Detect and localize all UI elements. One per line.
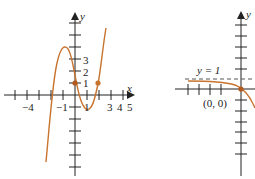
right-graph: y y = 1 (0, 0) [175, 8, 255, 176]
x-tick-label-neg1: −1 [56, 101, 68, 113]
point-origin [238, 86, 243, 91]
origin-label: (0, 0) [203, 97, 227, 110]
point-0-1 [72, 80, 77, 85]
y-tick-label-3: 3 [83, 54, 89, 66]
right-y-label: y [245, 8, 251, 20]
left-graph: y x −4 −1 1 3 4 5 3 2 1 [4, 10, 133, 176]
x-tick-label-1: 1 [84, 101, 90, 113]
x-tick-label-5: 5 [127, 101, 133, 113]
x-tick-label-3: 3 [107, 101, 113, 113]
left-y-label: y [79, 10, 85, 22]
asymptote-label: y = 1 [196, 64, 220, 76]
left-x-label: x [126, 82, 132, 94]
graphs-figure: y x −4 −1 1 3 4 5 3 2 1 [0, 0, 255, 179]
x-tick-label-4: 4 [117, 101, 123, 113]
point-2-1 [95, 80, 100, 85]
x-tick-label-neg4: −4 [22, 101, 34, 113]
y-tick-label-1: 1 [83, 77, 89, 89]
